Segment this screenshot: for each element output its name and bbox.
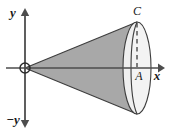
figure-container: y −y x C A: [0, 0, 172, 134]
y-axis-label: y: [8, 5, 16, 20]
y-axis-up-arrowhead: [21, 8, 29, 16]
point-label-a: A: [134, 69, 143, 83]
point-label-c: C: [133, 4, 142, 18]
negative-y-axis-label: −y: [6, 112, 20, 127]
cone-diagram: y −y x C A: [0, 0, 172, 134]
y-axis-down-arrowhead: [21, 120, 29, 128]
x-axis-label: x: [153, 68, 161, 83]
